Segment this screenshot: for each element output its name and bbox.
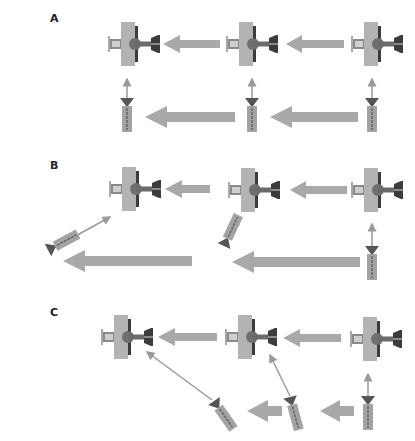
transfer-arrow-icon <box>320 400 354 422</box>
transfer-arrow-icon <box>270 106 358 128</box>
panel-label-c: C <box>50 306 58 319</box>
transfer-arrow-icon <box>286 35 344 53</box>
panel-a <box>109 22 403 132</box>
tool-a3 <box>365 98 379 132</box>
tool-a2 <box>245 98 259 132</box>
station-b1 <box>110 167 161 211</box>
transfer-arrow-icon <box>283 329 341 347</box>
panel-label-a: A <box>50 12 59 25</box>
station-c1 <box>102 315 153 359</box>
process-diagram <box>0 0 415 441</box>
transfer-arrow-icon <box>232 251 360 273</box>
station-c2 <box>226 315 277 359</box>
transfer-arrow-icon <box>165 180 210 198</box>
station-a2 <box>227 22 278 66</box>
tool-b2 <box>218 212 245 249</box>
station-a3 <box>352 22 403 66</box>
tool-a1 <box>120 98 134 132</box>
transfer-arrow-icon <box>63 250 192 272</box>
transfer-arrow-icon <box>163 35 220 53</box>
panel-label-b: B <box>50 159 58 172</box>
transfer-arrow-icon <box>145 106 235 128</box>
tool-b3 <box>365 246 379 280</box>
transfer-arrow-icon <box>158 328 217 346</box>
station-b2 <box>229 168 280 212</box>
tool-c3 <box>361 396 375 430</box>
station-a1 <box>109 22 160 66</box>
tool-b1 <box>45 228 82 256</box>
panel-b <box>45 167 403 280</box>
station-c3 <box>351 317 402 361</box>
station-b3 <box>352 168 403 212</box>
delivery-arrow-icon <box>270 355 290 396</box>
transfer-arrow-icon <box>247 400 282 422</box>
panel-c <box>102 315 402 433</box>
tool-c1 <box>208 397 239 433</box>
tool-c2 <box>283 395 305 431</box>
transfer-arrow-icon <box>290 181 347 199</box>
delivery-arrow-icon <box>147 352 212 400</box>
